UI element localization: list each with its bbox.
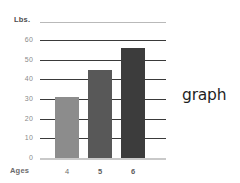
- axis-baseline: [40, 158, 166, 160]
- graph-annotation-text: graph: [182, 86, 226, 104]
- y-tick-label-60: 60: [11, 36, 33, 43]
- bar-age-6: [121, 48, 145, 158]
- y-tick-label-40: 40: [11, 75, 33, 82]
- top-rule-line: [40, 22, 166, 23]
- y-axis-unit-label: Lbs.: [14, 15, 30, 24]
- bar-age-4: [55, 97, 79, 158]
- x-tick-label-5: 5: [87, 167, 113, 176]
- chart-page: Lbs. Ages 6050403020100 456 graph: [0, 0, 240, 183]
- y-tick-label-20: 20: [11, 115, 33, 122]
- bar-age-5: [88, 70, 112, 159]
- x-tick-label-6: 6: [120, 167, 146, 176]
- x-axis-label: Ages: [10, 166, 29, 175]
- y-tick-label-50: 50: [11, 56, 33, 63]
- gridline-60: [40, 40, 166, 41]
- gridline-50: [40, 60, 166, 61]
- x-tick-label-4: 4: [54, 167, 80, 176]
- y-tick-label-0: 0: [11, 154, 33, 161]
- y-tick-label-30: 30: [11, 95, 33, 102]
- y-tick-label-10: 10: [11, 134, 33, 141]
- plot-area: [40, 18, 166, 158]
